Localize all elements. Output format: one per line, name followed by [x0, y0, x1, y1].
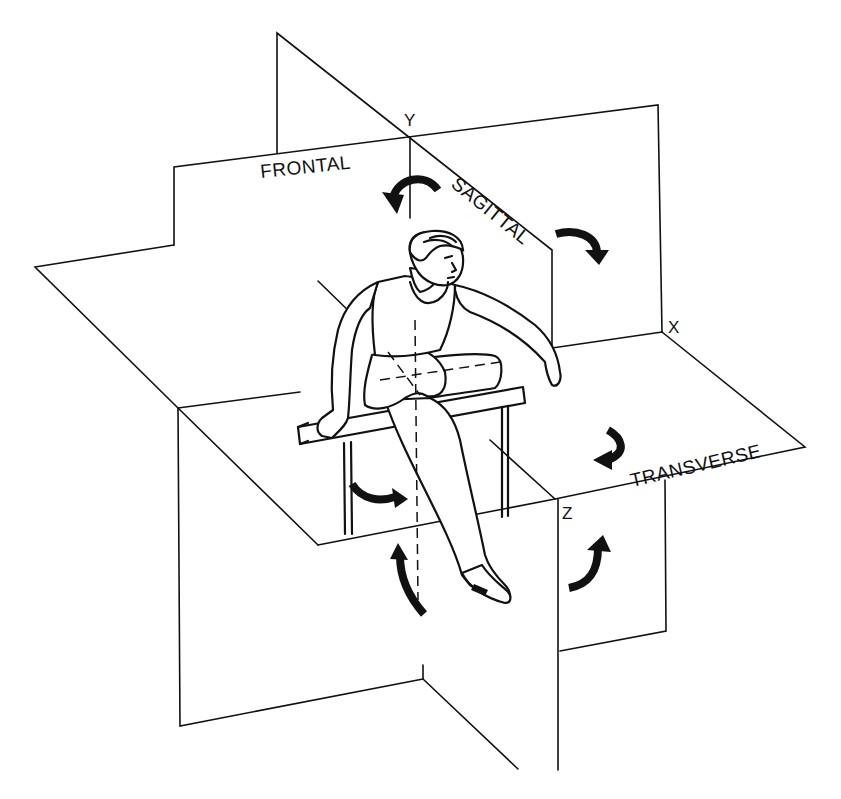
transverse-plane-label: TRANSVERSE	[628, 440, 763, 491]
curved-arrow-up-right-icon	[569, 535, 611, 588]
curved-arrow-up-icon	[390, 543, 424, 614]
y-axis-label: Y	[404, 111, 415, 130]
x-axis-label: X	[668, 318, 679, 337]
z-axis-label: Z	[562, 504, 572, 523]
anatomical-planes-diagram: FRONTAL SAGITTAL TRANSVERSE Y X Z	[0, 0, 841, 799]
curved-arrow-left-icon	[593, 430, 621, 470]
curved-arrow-right-icon	[352, 484, 408, 508]
frontal-plane-label: FRONTAL	[259, 152, 351, 182]
sagittal-plane-label: SAGITTAL	[447, 173, 534, 249]
curved-arrow-down-right-icon	[556, 232, 609, 265]
